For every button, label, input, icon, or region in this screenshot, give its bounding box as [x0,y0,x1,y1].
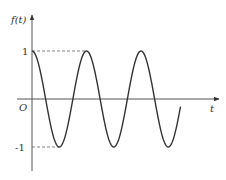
y-axis-label: f(t) [10,14,27,25]
origin-label: O [19,102,27,113]
x-axis-label: t [210,103,215,114]
tick-label-minus-1: -1 [15,142,25,153]
tick-label-1: 1 [22,46,28,57]
chart-canvas: f(t) t O 1 -1 [0,0,226,180]
